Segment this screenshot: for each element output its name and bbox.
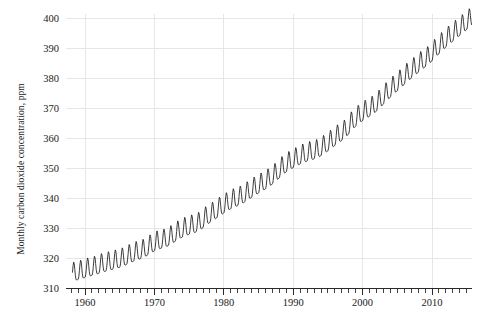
chart-page: 310320330340350360370380390400 196019701… — [0, 0, 487, 325]
y-tick-label-380: 380 — [43, 73, 59, 84]
x-tick-label-1970: 1970 — [144, 297, 165, 308]
y-tick-label-360: 360 — [43, 133, 59, 144]
x-tick-label-1960: 1960 — [75, 297, 96, 308]
y-tick-label-330: 330 — [43, 223, 59, 234]
y-tick-label-400: 400 — [43, 13, 59, 24]
x-tick-label-2010: 2010 — [422, 297, 443, 308]
y-axis-title: Monthly carbon dioxide concentration, pp… — [16, 83, 26, 255]
x-tick-label-1990: 1990 — [283, 297, 304, 308]
co2-concentration-chart: 310320330340350360370380390400 196019701… — [0, 0, 487, 325]
x-tick-label-2000: 2000 — [352, 297, 373, 308]
y-tick-label-310: 310 — [43, 283, 59, 294]
y-tick-label-370: 370 — [43, 103, 59, 114]
y-tick-label-340: 340 — [43, 193, 59, 204]
y-tick-label-320: 320 — [43, 253, 59, 264]
y-tick-label-350: 350 — [43, 163, 59, 174]
x-tick-label-1980: 1980 — [213, 297, 234, 308]
y-tick-label-390: 390 — [43, 43, 59, 54]
